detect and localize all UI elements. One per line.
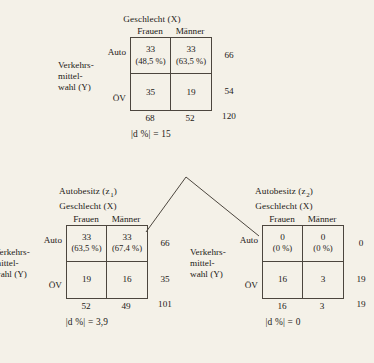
row-total-auto: 66 xyxy=(148,225,182,261)
col-total-frauen: 52 xyxy=(66,299,106,313)
col-header-maenner: Männer xyxy=(170,25,210,37)
row-variable-line3: wahl (Y) xyxy=(58,82,126,93)
table-layer-z1: Autobesitz (z1) Geschlecht (X) Auto Verk… xyxy=(0,186,182,327)
col-header-frauen: Frauen xyxy=(66,213,106,225)
col-total-frauen: 16 xyxy=(262,299,302,313)
diagram-canvas: Geschlecht (X) Auto Verkehrs- mittel- wa… xyxy=(0,0,374,363)
table-z2-title-line2: Geschlecht (X) xyxy=(190,201,374,212)
table-z2-title-line1: Autobesitz (z2) xyxy=(190,186,374,201)
table-layer-z2: Autobesitz (z2) Geschlecht (X) Auto Verk… xyxy=(190,186,374,327)
cell-count: 35 xyxy=(146,87,155,99)
cell-count: 16 xyxy=(278,274,287,286)
cell-count: 33 xyxy=(146,44,155,56)
layer2-title-text: Autobesitz (z xyxy=(255,186,306,196)
row-variable-line2: mittel- xyxy=(190,258,258,269)
cell-percent: (67,4 %) xyxy=(112,243,142,255)
table-z2-row-labels: Auto Verkehrs- mittel- wahl (Y) ÖV xyxy=(190,213,262,292)
cell-auto-frauen: 0 (0 %) xyxy=(263,226,303,262)
grand-total: 19 xyxy=(344,297,374,311)
table-total-grid: 33 (48,5 %) 33 (63,5 %) 35 19 xyxy=(130,37,212,111)
row-total-auto: 0 xyxy=(344,225,374,261)
cell-auto-maenner: 33 (67,4 %) xyxy=(107,226,147,262)
row-variable-line1: Verkehrs- xyxy=(190,247,258,258)
cell-percent: (63,5 %) xyxy=(176,56,206,68)
grand-total: 101 xyxy=(148,297,182,311)
row-variable-line1: Verkehrs- xyxy=(0,247,62,258)
row-total-oev: 54 xyxy=(212,73,246,109)
col-total-maenner: 3 xyxy=(302,299,342,313)
row-label-auto: Auto xyxy=(190,235,258,246)
cell-count: 0 xyxy=(321,232,326,244)
col-total-maenner: 52 xyxy=(170,111,210,125)
cell-count: 16 xyxy=(122,274,131,286)
table-z1-column-totals: 52 49 xyxy=(66,299,148,313)
row-variable-line3: wahl (Y) xyxy=(0,269,62,280)
col-header-frauen: Frauen xyxy=(130,25,170,37)
col-header-frauen: Frauen xyxy=(262,213,302,225)
table-z2-column-headers: Frauen Männer xyxy=(262,213,344,225)
cell-auto-frauen: 33 (48,5 %) xyxy=(131,38,171,74)
layer1-title-text: Autobesitz (z xyxy=(59,186,110,196)
table-total: Geschlecht (X) Auto Verkehrs- mittel- wa… xyxy=(58,14,246,139)
cell-count: 33 xyxy=(186,44,195,56)
cell-oev-maenner: 19 xyxy=(171,74,211,110)
row-label-oev: ÖV xyxy=(190,280,258,291)
cell-oev-maenner: 3 xyxy=(303,262,343,298)
cell-count: 3 xyxy=(321,274,326,286)
cell-percent: (0 %) xyxy=(273,243,292,255)
table-z1-column-headers: Frauen Männer xyxy=(66,213,148,225)
row-variable-line3: wahl (Y) xyxy=(190,269,258,280)
table-total-row-totals: 66 54 120 xyxy=(212,37,246,123)
row-label-auto: Auto xyxy=(0,235,62,246)
cell-count: 0 xyxy=(280,232,285,244)
row-total-oev: 19 xyxy=(344,261,374,297)
table-z1-dpct: |d %| = 3,9 xyxy=(0,317,180,327)
table-z2-grid: 0 (0 %) 0 (0 %) 16 3 xyxy=(262,225,344,299)
table-total-column-headers: Frauen Männer xyxy=(130,25,212,37)
cell-auto-maenner: 33 (63,5 %) xyxy=(171,38,211,74)
table-z1-row-totals: 66 35 101 xyxy=(148,225,182,311)
table-total-row-labels: Auto Verkehrs- mittel- wahl (Y) ÖV xyxy=(58,25,130,104)
col-total-frauen: 68 xyxy=(130,111,170,125)
col-header-maenner: Männer xyxy=(106,213,146,225)
cell-count: 33 xyxy=(82,232,91,244)
cell-oev-frauen: 16 xyxy=(263,262,303,298)
cell-count: 19 xyxy=(82,274,91,286)
cell-oev-frauen: 35 xyxy=(131,74,171,110)
cell-percent: (63,5 %) xyxy=(71,243,101,255)
row-variable-line2: mittel- xyxy=(0,258,62,269)
table-z1-title-line2: Geschlecht (X) xyxy=(0,201,182,212)
table-total-column-totals: 68 52 xyxy=(130,111,212,125)
table-z1-row-labels: Auto Verkehrs- mittel- wahl (Y) ÖV xyxy=(0,213,66,292)
cell-percent: (0 %) xyxy=(313,243,332,255)
row-label-oev: ÖV xyxy=(58,93,126,104)
row-variable-line2: mittel- xyxy=(58,71,126,82)
table-total-dpct: |d %| = 15 xyxy=(58,129,244,139)
table-z2-column-totals: 16 3 xyxy=(262,299,344,313)
layer2-close-paren: ) xyxy=(310,186,313,196)
cell-oev-maenner: 16 xyxy=(107,262,147,298)
cell-count: 33 xyxy=(122,232,131,244)
cell-percent: (48,5 %) xyxy=(135,56,165,68)
layer1-close-paren: ) xyxy=(114,186,117,196)
table-z1-grid: 33 (63,5 %) 33 (67,4 %) 19 16 xyxy=(66,225,148,299)
row-label-oev: ÖV xyxy=(0,280,62,291)
cell-count: 19 xyxy=(186,87,195,99)
cell-auto-frauen: 33 (63,5 %) xyxy=(67,226,107,262)
grand-total: 120 xyxy=(212,109,246,123)
col-header-maenner: Männer xyxy=(302,213,342,225)
table-z1-title-line1: Autobesitz (z1) xyxy=(0,186,182,201)
row-label-auto: Auto xyxy=(58,47,126,58)
table-z2-row-totals: 0 19 19 xyxy=(344,225,374,311)
row-total-oev: 35 xyxy=(148,261,182,297)
table-total-title: Geschlecht (X) xyxy=(58,14,246,25)
table-z2-dpct: |d %| = 0 xyxy=(190,317,374,327)
cell-auto-maenner: 0 (0 %) xyxy=(303,226,343,262)
row-variable-line1: Verkehrs- xyxy=(58,60,126,71)
cell-oev-frauen: 19 xyxy=(67,262,107,298)
row-total-auto: 66 xyxy=(212,37,246,73)
col-total-maenner: 49 xyxy=(106,299,146,313)
